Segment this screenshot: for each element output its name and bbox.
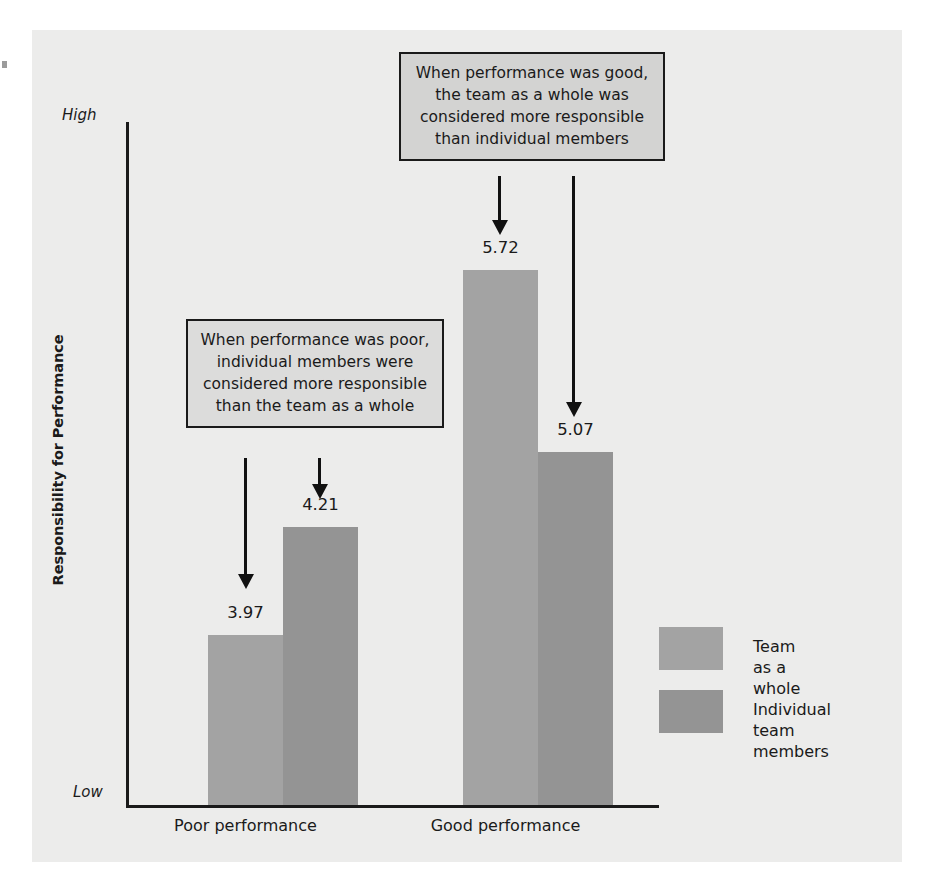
y-axis-high-label: High	[62, 106, 96, 124]
page-artifact-speck	[2, 61, 7, 68]
bar-poor-team	[208, 635, 283, 805]
arrow-line-good-individual	[572, 176, 575, 406]
legend-item-individual: Individual team members	[659, 690, 831, 762]
figure-root: Responsibility for Performance High Low …	[0, 0, 933, 882]
bar-good-individual	[538, 452, 613, 805]
legend-swatch-team	[659, 627, 723, 670]
callout-poor-performance: When performance was poor, individual me…	[186, 319, 444, 428]
bar-poor-individual	[283, 527, 358, 805]
y-axis-title: Responsibility for Performance	[50, 330, 66, 590]
arrow-line-good-team	[498, 176, 501, 224]
arrow-head-poor-individual	[312, 484, 328, 499]
y-axis-low-label: Low	[73, 783, 103, 801]
arrow-head-good-team	[492, 220, 508, 235]
callout-good-performance: When performance was good, the team as a…	[399, 52, 665, 161]
arrow-head-poor-team	[238, 574, 254, 589]
bar-value-good-individual: 5.07	[538, 420, 613, 439]
legend-label-individual: Individual team members	[753, 690, 831, 762]
legend-item-team: Team as a whole	[659, 627, 800, 699]
arrow-line-poor-team	[244, 458, 247, 578]
bar-value-good-team: 5.72	[463, 238, 538, 257]
x-axis-line	[126, 805, 659, 808]
arrow-head-good-individual	[566, 402, 582, 417]
legend-swatch-individual	[659, 690, 723, 733]
legend-label-team: Team as a whole	[753, 627, 800, 699]
bar-value-poor-team: 3.97	[208, 603, 283, 622]
category-label-poor: Poor performance	[168, 816, 323, 835]
bar-good-team	[463, 270, 538, 805]
category-label-good: Good performance	[423, 816, 588, 835]
bars-container	[129, 122, 659, 805]
